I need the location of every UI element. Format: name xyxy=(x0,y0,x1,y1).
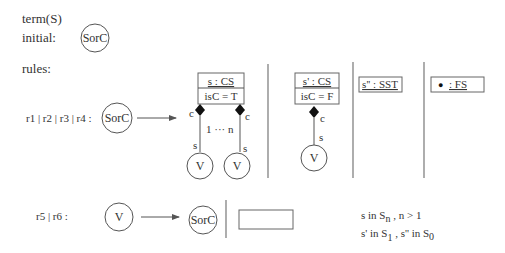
panel1-attribute: isC = T xyxy=(205,90,238,102)
left-role-s: s xyxy=(193,139,197,151)
panel2-composition-diamond-icon xyxy=(309,106,319,118)
panel3-object-box: s'' : SST xyxy=(359,77,402,92)
panel4-bullet-icon: ● xyxy=(438,80,443,90)
svg-text:s' in S1 , s'' in S0: s' in S1 , s'' in S0 xyxy=(361,227,434,243)
panel2-object-box: s' : CS isC = F xyxy=(295,73,339,104)
constraint-line-2: s' in S1 , s'' in S0 xyxy=(361,227,434,243)
rule2-rhs-sorc-node: SorC xyxy=(189,206,217,234)
panel1-left-v-node: V xyxy=(187,153,213,179)
right-role-s: s xyxy=(243,142,247,154)
svg-text:V: V xyxy=(310,151,319,165)
svg-text:SorC: SorC xyxy=(83,31,108,45)
panel2-role-c: c xyxy=(320,112,325,124)
panel2-role-s: s xyxy=(319,131,323,143)
right-role-c: c xyxy=(245,110,250,122)
panel4-object-name: : FS xyxy=(449,78,467,90)
initial-sorc-node: SorC xyxy=(81,24,109,52)
rule2-empty-box xyxy=(239,210,293,229)
left-composition-diamond-icon xyxy=(195,104,205,116)
panel2-v-node: V xyxy=(301,145,327,171)
constraint-line-1: s in Sn , n > 1 xyxy=(361,209,421,224)
rules-label: rules: xyxy=(22,61,51,76)
panel3-object-name: s'' : SST xyxy=(362,78,398,90)
diagram-canvas: term(S) initial: SorC rules: r1 | r2 | r… xyxy=(0,0,505,253)
panel1-object-box: s : CS isC = T xyxy=(198,73,244,104)
rule1-label: r1 | r2 | r3 | r4 : xyxy=(26,112,92,124)
svg-text:SorC: SorC xyxy=(191,213,216,227)
multiplicity-label: 1 ··· n xyxy=(206,123,234,135)
left-role-c: c xyxy=(189,107,194,119)
panel1-object-name: s : CS xyxy=(208,75,234,87)
term-label: term(S) xyxy=(22,11,62,26)
svg-text:V: V xyxy=(196,159,205,173)
right-composition-diamond-icon xyxy=(235,104,245,116)
svg-text:SorC: SorC xyxy=(105,111,130,125)
rule2-lhs-v-node: V xyxy=(105,203,133,231)
svg-text:V: V xyxy=(115,210,124,224)
rule2-label: r5 | r6 : xyxy=(36,210,68,222)
panel2-object-name: s' : CS xyxy=(303,75,331,87)
panel4-object-box: ● : FS xyxy=(431,77,484,92)
rule1-lhs-sorc-node: SorC xyxy=(102,103,132,133)
panel1-right-v-node: V xyxy=(224,153,250,179)
initial-label: initial: xyxy=(22,30,56,45)
svg-text:s in Sn , n > 1: s in Sn , n > 1 xyxy=(361,209,421,224)
svg-text:V: V xyxy=(233,159,242,173)
panel2-attribute: isC = F xyxy=(301,90,334,102)
